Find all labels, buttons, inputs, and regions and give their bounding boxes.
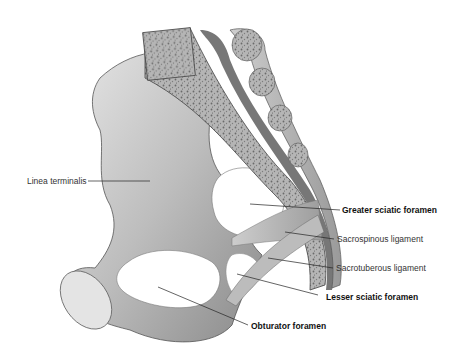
label-obturator-foramen: Obturator foramen — [251, 321, 326, 331]
label-linea-terminalis: Linea terminalis — [27, 176, 87, 186]
label-sacrospinous-ligament: Sacrospinous ligament — [337, 234, 423, 244]
sacral-segment-3 — [268, 105, 292, 131]
sacral-segment-1 — [232, 29, 262, 61]
label-lesser-sciatic-foramen: Lesser sciatic foramen — [326, 292, 418, 302]
label-sacrotuberous-ligament: Sacrotuberous ligament — [336, 263, 426, 273]
pelvis-illustration: Linea terminalis Greater sciatic foramen… — [0, 0, 461, 361]
sacral-segment-4 — [288, 143, 308, 167]
sacral-segment-2 — [249, 68, 275, 96]
label-greater-sciatic-foramen: Greater sciatic foramen — [342, 205, 437, 215]
sacral-promontory-block — [143, 28, 196, 81]
